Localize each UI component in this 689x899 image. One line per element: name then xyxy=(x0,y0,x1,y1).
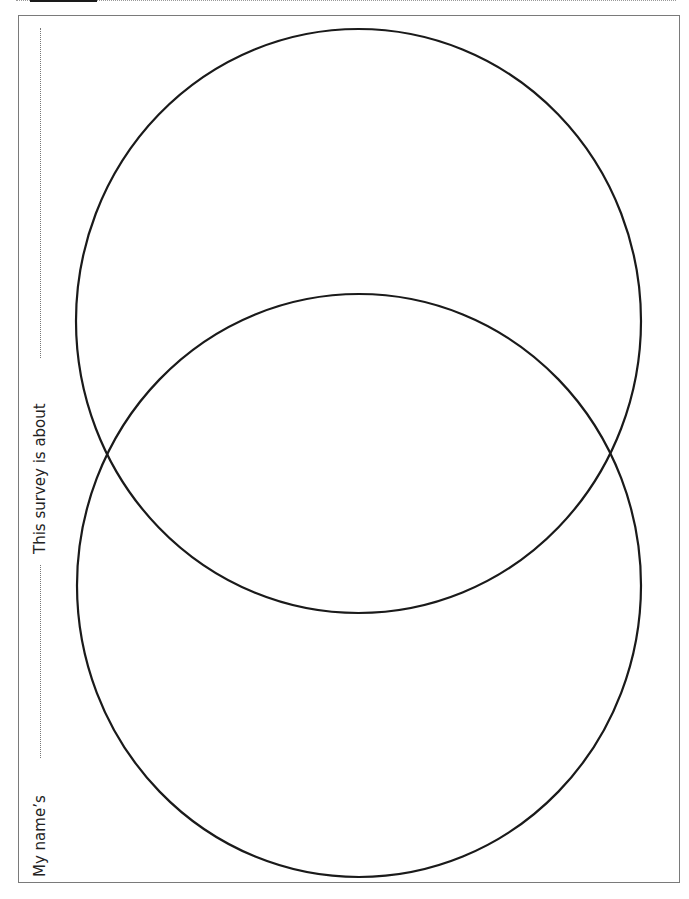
name-write-in-line[interactable] xyxy=(40,565,41,758)
venn-circle-bottom[interactable] xyxy=(77,294,641,877)
name-label: My name’s xyxy=(31,795,49,877)
topic-write-in-line[interactable] xyxy=(40,28,41,358)
venn-circle-top[interactable] xyxy=(76,29,641,613)
topic-label: This survey is about xyxy=(31,403,49,554)
venn-diagram xyxy=(0,0,689,899)
